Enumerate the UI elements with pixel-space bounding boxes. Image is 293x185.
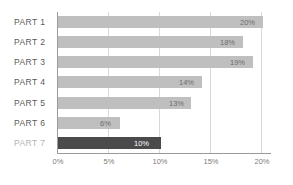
bar-chart: PART 1 20% PART 2 18% PART 3 19% PART 4 … xyxy=(0,0,293,185)
x-tick-3: 15% xyxy=(203,157,218,166)
bar-value-part-2: 18% xyxy=(220,38,235,47)
bar-row: PART 4 14% xyxy=(0,72,293,92)
x-axis-tick-labels: 0% 5% 10% 15% 20% xyxy=(0,157,293,173)
bar-row: PART 6 6% xyxy=(0,113,293,133)
bar-part-2[interactable] xyxy=(58,36,243,48)
category-label-part-5: PART 5 xyxy=(14,98,46,108)
bar-value-part-1: 20% xyxy=(240,18,255,27)
bar-part-1[interactable] xyxy=(58,16,263,28)
category-label-part-3: PART 3 xyxy=(14,57,46,67)
bar-rows: PART 1 20% PART 2 18% PART 3 19% PART 4 … xyxy=(0,12,293,153)
x-tick-2: 10% xyxy=(152,157,167,166)
bar-value-part-7: 10% xyxy=(134,138,149,147)
category-label-part-6: PART 6 xyxy=(14,118,46,128)
category-label-part-4: PART 4 xyxy=(14,77,46,87)
bar-row: PART 7 10% xyxy=(0,133,293,153)
x-tick-0: 0% xyxy=(53,157,64,166)
category-label-part-7: PART 7 xyxy=(14,138,46,148)
bar-row: PART 2 18% xyxy=(0,32,293,52)
category-label-part-1: PART 1 xyxy=(14,17,46,27)
x-tick-1: 5% xyxy=(104,157,115,166)
x-axis-line xyxy=(57,153,271,154)
bar-value-part-3: 19% xyxy=(230,58,245,67)
x-tick-4: 20% xyxy=(254,157,269,166)
bar-row: PART 3 19% xyxy=(0,52,293,72)
bar-row: PART 5 13% xyxy=(0,93,293,113)
bar-row: PART 1 20% xyxy=(0,12,293,32)
bar-value-part-4: 14% xyxy=(179,78,194,87)
category-label-part-2: PART 2 xyxy=(14,37,46,47)
bar-part-3[interactable] xyxy=(58,56,253,68)
bar-value-part-6: 6% xyxy=(100,118,111,127)
bar-value-part-5: 13% xyxy=(169,98,184,107)
